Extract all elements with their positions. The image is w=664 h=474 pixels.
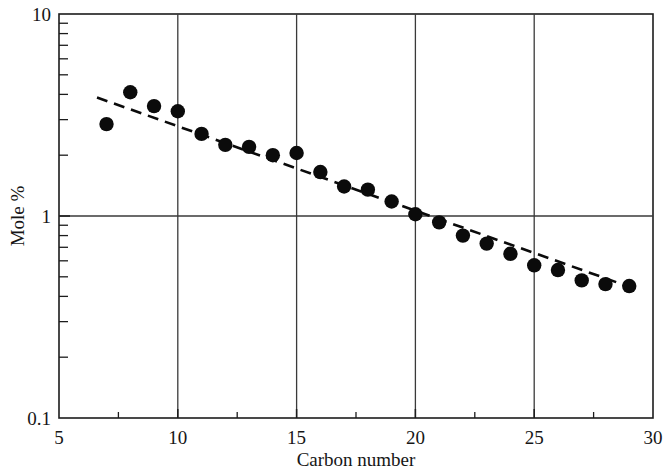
- data-point-c17: [337, 179, 351, 193]
- data-point-c13: [242, 140, 256, 154]
- data-point-c25: [527, 258, 541, 272]
- data-point-c14: [266, 148, 280, 162]
- x-tick-label-15: 15: [287, 427, 306, 448]
- trend-line-group: [97, 98, 624, 286]
- data-point-c20: [408, 207, 422, 221]
- y-tick-label-10: 10: [32, 4, 51, 25]
- y-axis-tick-labels: 0.1110: [27, 4, 51, 429]
- scatter-plot-canvas: 51015202530 0.1110 Carbon number Mole %: [0, 0, 664, 474]
- y-tick-label-0p1: 0.1: [27, 408, 51, 429]
- data-point-c21: [432, 215, 446, 229]
- chart-figure: 51015202530 0.1110 Carbon number Mole %: [0, 0, 664, 474]
- data-point-c8: [123, 85, 137, 99]
- data-point-c26: [551, 263, 565, 277]
- dashed-trend-line: [97, 98, 624, 286]
- x-tick-label-20: 20: [406, 427, 425, 448]
- x-axis-ticks: [118, 409, 593, 418]
- data-point-c7: [99, 117, 113, 131]
- data-point-c23: [479, 236, 493, 250]
- data-point-c18: [361, 182, 375, 196]
- x-tick-label-10: 10: [168, 427, 187, 448]
- data-point-c9: [147, 99, 161, 113]
- data-point-c12: [218, 138, 232, 152]
- data-point-c10: [171, 104, 185, 118]
- data-point-c28: [598, 277, 612, 291]
- data-point-c27: [575, 273, 589, 287]
- data-point-c15: [289, 146, 303, 160]
- y-tick-label-1: 1: [42, 206, 52, 227]
- x-tick-label-25: 25: [525, 427, 544, 448]
- data-point-c24: [503, 247, 517, 261]
- x-tick-label-5: 5: [54, 427, 64, 448]
- y-axis-title: Mole %: [7, 185, 28, 246]
- x-tick-label-30: 30: [644, 427, 663, 448]
- x-axis-title: Carbon number: [297, 449, 416, 470]
- data-point-c22: [456, 228, 470, 242]
- data-point-c11: [194, 127, 208, 141]
- x-axis-tick-labels: 51015202530: [54, 427, 662, 448]
- data-point-c29: [622, 279, 636, 293]
- data-point-c16: [313, 165, 327, 179]
- y-axis-ticks: [59, 23, 70, 357]
- data-point-c19: [384, 194, 398, 208]
